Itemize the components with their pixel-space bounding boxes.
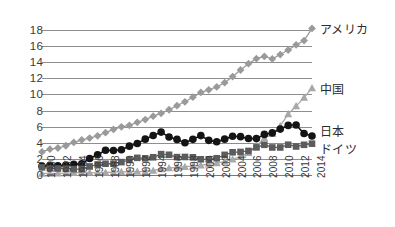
x-tick-label: 1982 xyxy=(62,155,73,178)
data-point-marker xyxy=(292,121,300,129)
data-point-marker xyxy=(308,132,316,140)
data-point-marker xyxy=(102,129,110,137)
data-point-marker xyxy=(253,135,261,143)
data-point-marker xyxy=(141,116,149,124)
data-point-marker xyxy=(308,84,316,91)
data-point-marker xyxy=(157,128,165,136)
chart-container: 024681012141618 198019821984198619881990… xyxy=(0,0,395,227)
x-tick-label: 2014 xyxy=(316,155,327,178)
data-point-marker xyxy=(237,133,245,141)
y-tick-label: 12 xyxy=(30,72,43,84)
data-point-marker xyxy=(133,140,141,148)
data-point-marker xyxy=(268,129,276,137)
series-label-アメリカ: アメリカ xyxy=(320,20,368,37)
data-point-marker xyxy=(149,112,157,120)
data-point-marker xyxy=(285,141,292,148)
data-point-marker xyxy=(181,98,189,106)
data-point-marker xyxy=(261,142,268,149)
data-point-marker xyxy=(197,132,205,140)
x-tick-label: 1984 xyxy=(78,155,89,178)
data-point-marker xyxy=(197,89,205,97)
y-tick-label: 14 xyxy=(30,56,43,68)
plot-area xyxy=(42,22,312,175)
data-point-marker xyxy=(277,144,284,151)
data-point-marker xyxy=(268,55,276,63)
x-tick-label: 1998 xyxy=(189,155,200,178)
y-tick-label: 4 xyxy=(36,137,43,149)
data-point-marker xyxy=(213,83,221,91)
data-point-marker xyxy=(269,144,276,151)
data-point-marker xyxy=(189,93,197,101)
data-point-marker xyxy=(284,46,292,54)
x-tick-label: 2002 xyxy=(221,155,232,178)
series-label-ドイツ: ドイツ xyxy=(320,140,357,157)
data-point-marker xyxy=(173,136,181,144)
data-point-marker xyxy=(301,142,308,149)
data-point-marker xyxy=(70,139,78,147)
y-tick-label: 16 xyxy=(30,40,43,52)
data-point-marker xyxy=(245,148,252,155)
y-tick-label: 18 xyxy=(30,24,43,36)
data-point-marker xyxy=(133,118,141,126)
series-layer xyxy=(42,22,312,175)
data-point-marker xyxy=(309,140,316,147)
data-point-marker xyxy=(221,135,229,143)
data-point-marker xyxy=(181,139,189,147)
data-point-marker xyxy=(253,144,260,151)
data-point-marker xyxy=(110,126,118,134)
x-tick-label: 1988 xyxy=(110,155,121,178)
x-tick-label: 2004 xyxy=(237,155,248,178)
data-point-marker xyxy=(102,146,110,154)
data-point-marker xyxy=(86,134,94,142)
data-point-marker xyxy=(205,86,213,94)
data-point-marker xyxy=(149,132,157,140)
y-tick-label: 10 xyxy=(30,88,43,100)
data-point-marker xyxy=(157,109,165,117)
data-point-marker xyxy=(125,121,133,129)
data-point-marker xyxy=(261,131,269,139)
x-tick-label: 2012 xyxy=(300,155,311,178)
x-tick-label: 1980 xyxy=(46,155,57,178)
data-point-marker xyxy=(118,146,126,154)
y-tick-label: 0 xyxy=(36,169,43,181)
x-tick-label: 2006 xyxy=(252,155,263,178)
data-point-marker xyxy=(245,135,253,143)
data-point-marker xyxy=(300,130,308,138)
data-point-marker xyxy=(173,102,181,110)
data-point-marker xyxy=(94,132,102,140)
x-tick-label: 1986 xyxy=(94,155,105,178)
series-label-日本: 日本 xyxy=(320,121,345,138)
data-point-marker xyxy=(165,133,173,141)
data-point-marker xyxy=(292,41,300,49)
data-point-marker xyxy=(165,106,173,114)
data-point-marker xyxy=(205,137,213,145)
data-point-marker xyxy=(276,51,284,59)
data-point-marker xyxy=(260,53,268,61)
data-point-marker xyxy=(293,143,300,150)
x-tick-label: 1990 xyxy=(125,155,136,178)
x-tick-label: 1992 xyxy=(141,155,152,178)
y-tick-label: 2 xyxy=(36,153,43,165)
series-label-中国: 中国 xyxy=(320,80,345,97)
data-point-marker xyxy=(141,135,149,143)
data-point-marker xyxy=(253,55,261,63)
data-point-marker xyxy=(229,132,237,140)
data-point-marker xyxy=(126,142,134,150)
data-point-marker xyxy=(300,37,308,45)
y-tick-label: 6 xyxy=(36,121,43,133)
x-tick-label: 1996 xyxy=(173,155,184,178)
x-tick-label: 2000 xyxy=(205,155,216,178)
data-point-marker xyxy=(78,136,86,144)
y-tick-label: 8 xyxy=(36,105,43,117)
data-point-marker xyxy=(284,122,292,130)
data-point-marker xyxy=(276,125,284,133)
data-point-marker xyxy=(189,136,197,144)
data-point-marker xyxy=(118,123,126,131)
data-point-marker xyxy=(308,25,316,33)
data-point-marker xyxy=(213,138,221,146)
data-point-marker xyxy=(62,142,70,150)
data-point-marker xyxy=(54,144,62,152)
data-point-marker xyxy=(110,147,118,155)
x-tick-label: 1994 xyxy=(157,155,168,178)
data-point-marker xyxy=(46,145,54,153)
